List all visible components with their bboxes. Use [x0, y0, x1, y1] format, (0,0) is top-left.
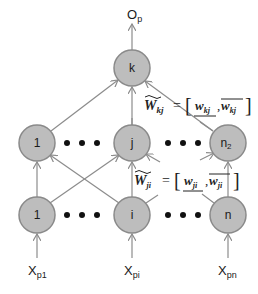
svg-text:=: = [173, 98, 181, 113]
input-ellipsis-left [64, 212, 100, 218]
svg-text:wkj: wkj [195, 98, 211, 115]
svg-text:wkj: wkj [221, 98, 237, 115]
svg-text:1: 1 [34, 136, 41, 150]
input-label-xp1: Xp1 [28, 263, 47, 280]
input-label-xpn: Xpn [218, 263, 237, 280]
edge-hiddenn2-stub [200, 122, 213, 131]
weight-equation-ji: Wji = [ wji , wji ] [134, 169, 240, 191]
svg-text:k: k [129, 61, 136, 75]
left-bracket: [ [174, 169, 181, 191]
svg-text:wji: wji [209, 173, 223, 190]
svg-text:n: n [225, 208, 232, 222]
input-node-1: 1 [19, 197, 55, 233]
edge-to-hiddenj-partial [146, 154, 160, 162]
svg-text:=: = [162, 173, 170, 188]
svg-text:Wji: Wji [134, 173, 152, 190]
output-node-k: k [114, 50, 150, 86]
left-bracket: [ [185, 94, 192, 116]
hidden-node-n2: n2 [210, 125, 246, 161]
svg-text:,: , [217, 98, 220, 113]
right-bracket: ] [245, 94, 252, 116]
hidden-ellipsis-right [165, 140, 201, 146]
neural-network-diagram: Op k 1 j n2 1 i n Xp1 Xpi Xpn [0, 0, 258, 294]
svg-text:wji: wji [184, 173, 198, 190]
hidden-node-j: j [114, 125, 150, 161]
right-bracket: ] [233, 169, 240, 191]
hidden-node-1: 1 [19, 125, 55, 161]
input-node-i: i [114, 197, 150, 233]
weight-equation-kj: Wkj = [ wkj , wkj ] [144, 94, 252, 116]
edge-inputi-partial [146, 195, 158, 203]
output-label: Op [127, 7, 142, 24]
edge-hidden1-to-k [51, 80, 118, 131]
svg-text:,: , [205, 173, 208, 188]
input-node-n: n [210, 197, 246, 233]
edge-inputn-partial [202, 194, 214, 203]
svg-text:Wkj: Wkj [144, 98, 164, 115]
svg-text:1: 1 [34, 208, 41, 222]
svg-text:i: i [131, 208, 134, 222]
svg-text:j: j [130, 136, 134, 150]
edge-to-hiddenn2-partial [200, 153, 214, 160]
input-ellipsis-right [165, 212, 201, 218]
hidden-ellipsis-left [64, 140, 100, 146]
input-label-xpi: Xpi [124, 263, 140, 280]
